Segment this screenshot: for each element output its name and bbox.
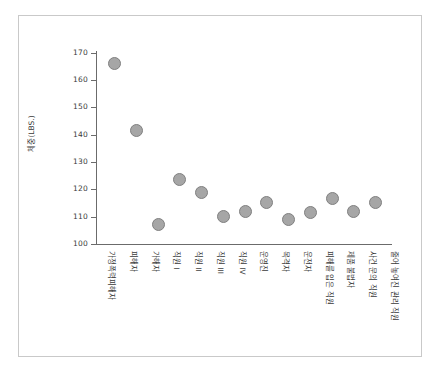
y-axis-tick-value: 170 bbox=[52, 48, 88, 57]
x-axis-category-label: 피해를 입은 직원 bbox=[325, 251, 336, 305]
y-axis-tick-label: 150 bbox=[48, 102, 88, 112]
y-axis-tick-value: 100 bbox=[52, 239, 88, 248]
data-point bbox=[326, 192, 339, 205]
x-axis-category-label: 제품 불법자 bbox=[346, 251, 357, 288]
data-point bbox=[239, 205, 252, 218]
y-axis-tick bbox=[91, 244, 96, 245]
x-axis-category-label: 운전자 bbox=[303, 251, 314, 272]
y-axis-tick-value: 160 bbox=[52, 75, 88, 84]
plot-area: 100110120130140150160170 체중(LBS.) 가정폭력피해… bbox=[0, 0, 441, 374]
y-axis-tick bbox=[91, 107, 96, 108]
data-point bbox=[195, 186, 208, 199]
x-axis-category-label: 직원 II bbox=[194, 251, 205, 272]
chart-figure: 100110120130140150160170 체중(LBS.) 가정폭력피해… bbox=[0, 0, 441, 374]
y-axis-tick-value: 140 bbox=[52, 130, 88, 139]
x-axis-category-label: 직원 III bbox=[216, 251, 227, 274]
data-point bbox=[152, 218, 165, 231]
x-axis-line bbox=[96, 244, 392, 245]
y-axis-tick-label: 130 bbox=[48, 157, 88, 167]
y-axis-tick-label: 140 bbox=[48, 130, 88, 140]
x-axis-category-label: 줄어 놓여진 관리 직원 bbox=[390, 251, 401, 321]
y-axis-tick-label: 100 bbox=[48, 239, 88, 249]
x-axis-category-label: 목격자 bbox=[281, 251, 292, 272]
x-axis-category-label: 직원 I bbox=[172, 251, 183, 270]
y-axis-tick-label: 160 bbox=[48, 75, 88, 85]
data-point bbox=[282, 213, 295, 226]
y-axis-title: 체중(LBS.) bbox=[25, 95, 36, 173]
y-axis-tick bbox=[91, 189, 96, 190]
y-axis-tick-label: 110 bbox=[48, 212, 88, 222]
data-point bbox=[108, 57, 121, 70]
x-axis-category-label: 가정폭력피해자 bbox=[107, 251, 118, 300]
data-point bbox=[347, 205, 360, 218]
y-axis-tick bbox=[91, 162, 96, 163]
x-axis-category-label: 피해자 bbox=[129, 251, 140, 272]
x-axis-category-label: 사건 문의 직원 bbox=[368, 251, 379, 298]
y-axis-tick bbox=[91, 217, 96, 218]
data-point bbox=[260, 196, 273, 209]
y-axis-tick bbox=[91, 53, 96, 54]
y-axis-tick-label: 170 bbox=[48, 48, 88, 58]
data-point bbox=[369, 196, 382, 209]
y-axis-tick bbox=[91, 135, 96, 136]
y-axis-tick-label: 120 bbox=[48, 184, 88, 194]
x-axis-category-label: 직원 IV bbox=[238, 251, 249, 275]
y-axis-tick-value: 120 bbox=[52, 184, 88, 193]
y-axis-tick bbox=[91, 80, 96, 81]
data-point bbox=[304, 206, 317, 219]
data-point bbox=[173, 173, 186, 186]
data-point bbox=[130, 124, 143, 137]
y-axis-tick-value: 150 bbox=[52, 102, 88, 111]
y-axis-tick-value: 130 bbox=[52, 157, 88, 166]
x-axis-category-label: 운영진 bbox=[259, 251, 270, 272]
y-axis-tick-value: 110 bbox=[52, 212, 88, 221]
x-axis-category-label: 가해자 bbox=[151, 251, 162, 272]
y-axis-line bbox=[96, 51, 97, 245]
data-point bbox=[217, 210, 230, 223]
